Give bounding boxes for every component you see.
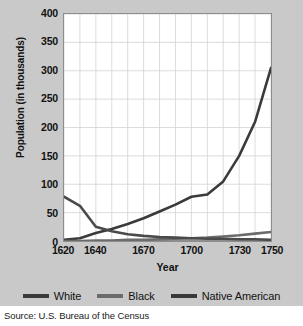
y-axis-tick-label: 350	[18, 36, 58, 47]
y-axis-tick-label: 400	[18, 8, 58, 19]
plot-canvas	[64, 14, 271, 241]
x-axis-tick-label: 1750	[250, 245, 294, 256]
x-axis-tick-label: 1700	[170, 245, 214, 256]
y-axis-tick-label: 300	[18, 65, 58, 76]
source-note: Source: U.S. Bureau of the Census	[4, 310, 149, 321]
legend-line-swatch-icon	[23, 294, 49, 298]
legend-item: White	[23, 290, 82, 302]
legend-item: Black	[97, 290, 154, 302]
legend-label: White	[54, 290, 82, 302]
y-axis-tick-label: 200	[18, 122, 58, 133]
series-line-white	[64, 68, 271, 240]
x-axis-title: Year	[63, 261, 272, 273]
y-axis-tick-label: 150	[18, 151, 58, 162]
x-axis-tick-label: 1640	[73, 245, 117, 256]
chart-figure: Population (in thousands) 05010015020025…	[0, 0, 303, 326]
plot-area	[63, 13, 272, 242]
chart-legend: WhiteBlackNative American	[0, 286, 303, 306]
legend-label: Black	[128, 290, 154, 302]
legend-line-swatch-icon	[171, 294, 197, 298]
legend-label: Native American	[202, 290, 281, 302]
legend-item: Native American	[171, 290, 281, 302]
y-axis-tick-label: 50	[18, 208, 58, 219]
y-axis-tick-label: 250	[18, 93, 58, 104]
legend-line-swatch-icon	[97, 294, 123, 298]
y-axis-tick-label: 100	[18, 179, 58, 190]
x-axis-tick-label: 1670	[121, 245, 165, 256]
